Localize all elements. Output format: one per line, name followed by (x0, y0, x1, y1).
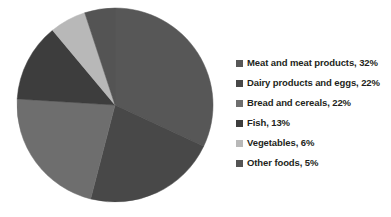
legend-entry: Dairy products and eggs, 22% (236, 73, 388, 93)
legend-swatch-icon (236, 140, 243, 147)
legend-entry: Vegetables, 6% (236, 133, 388, 153)
chart-legend: Meat and meat products, 32%Dairy product… (236, 53, 388, 173)
legend-swatch-icon (236, 160, 243, 167)
pie-chart-svg (0, 0, 232, 217)
legend-entry: Other foods, 5% (236, 153, 388, 173)
legend-entry: Fish, 13% (236, 113, 388, 133)
legend-swatch-icon (236, 120, 243, 127)
pie-chart-plot-area (0, 0, 232, 217)
legend-entry-label: Bread and cereals, 22% (247, 98, 351, 108)
legend-entry-label: Meat and meat products, 32% (247, 58, 378, 68)
legend-entry: Bread and cereals, 22% (236, 93, 388, 113)
legend-entry-label: Other foods, 5% (247, 158, 318, 168)
legend-swatch-icon (236, 80, 243, 87)
legend-entry: Meat and meat products, 32% (236, 53, 388, 73)
legend-swatch-icon (236, 100, 243, 107)
pie-chart-figure: Meat and meat products, 32%Dairy product… (0, 0, 391, 217)
legend-entry-label: Dairy products and eggs, 22% (247, 78, 380, 88)
pie-slice-group (17, 8, 213, 202)
legend-swatch-icon (236, 60, 243, 67)
legend-entry-label: Fish, 13% (247, 118, 290, 128)
legend-entry-label: Vegetables, 6% (247, 138, 314, 148)
